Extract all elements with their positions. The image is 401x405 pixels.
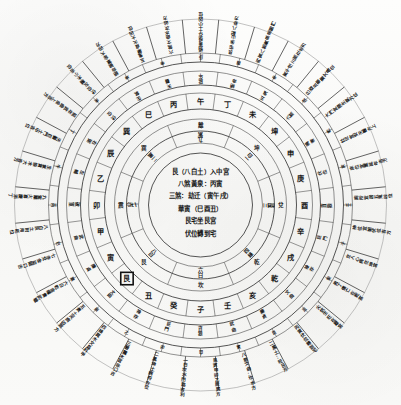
trigram-cell-巽: 巽 bbox=[141, 144, 147, 152]
mountain-cell-甲: 甲 bbox=[97, 227, 104, 236]
aux-cell-14: 五鬼 bbox=[259, 89, 269, 101]
radial-glyph: 曲 bbox=[72, 235, 80, 242]
radial-annotation-6: 七赤兌金盜賊口舌 bbox=[17, 253, 58, 271]
aux-divider-22 bbox=[149, 81, 154, 94]
degree-tick-45 bbox=[142, 65, 145, 73]
mountain-cell-辰: 辰 bbox=[107, 149, 115, 158]
mountain-divider-19 bbox=[97, 162, 112, 168]
aux-divider-14 bbox=[119, 300, 128, 311]
rim-cell-7: 午 bbox=[54, 164, 62, 171]
radial-glyph: 門 bbox=[164, 325, 171, 333]
radial-annotation-5: 六白乾金權貴武職 bbox=[31, 279, 69, 304]
trigram-cell-乾: 乾 bbox=[254, 258, 260, 266]
mountain-divider-1 bbox=[237, 102, 243, 117]
outer-spoke-8 bbox=[352, 220, 386, 223]
radial-annotation-13: 絕命破軍金大凶方 bbox=[94, 41, 121, 78]
aux-cell-9: 伏位 bbox=[105, 110, 117, 122]
aux-cell-17: 伏位 bbox=[316, 168, 329, 176]
rim-cell-14: 辛 bbox=[270, 73, 278, 82]
mountain-cell-子: 子 bbox=[197, 305, 204, 314]
radial-annotation-24: 廁所宜居五鬼凶位 bbox=[353, 193, 394, 200]
trigram-divider-0 bbox=[224, 126, 233, 148]
aux-cell-18: 貪狼 bbox=[320, 203, 332, 209]
mountain-divider-17 bbox=[89, 218, 105, 220]
degree-tick-31 bbox=[80, 292, 87, 297]
degree-tick-13 bbox=[342, 224, 351, 225]
aux-cell-21: 文曲 bbox=[284, 288, 296, 300]
trigram-cell-離: 離 bbox=[198, 121, 204, 129]
trigram-cell-艮: 艮 bbox=[141, 258, 147, 266]
radial-glyph: 位 bbox=[144, 384, 151, 392]
radial-glyph: 位 bbox=[8, 229, 16, 235]
radial-annotation-8: 九紫離火喜慶添丁 bbox=[7, 193, 49, 200]
mountain-divider-3 bbox=[277, 137, 290, 147]
mountain-divider-18 bbox=[89, 190, 105, 192]
outer-spoke-31 bbox=[182, 20, 185, 54]
aux-divider-5 bbox=[319, 188, 333, 190]
ring-circle-0 bbox=[149, 153, 253, 257]
degree-tick-1 bbox=[219, 54, 220, 63]
trigram-cell-兌: 兌 bbox=[278, 201, 284, 209]
rim-cell-10: 坤 bbox=[123, 73, 130, 81]
radial-annotation-31: 八煞文曲：坎水方 bbox=[240, 352, 257, 392]
mountain-divider-11 bbox=[213, 300, 215, 316]
trigram-divider-4 bbox=[168, 262, 177, 284]
aux-cell-7: 左輔 bbox=[72, 168, 86, 176]
outer-spoke-6 bbox=[346, 151, 379, 161]
radial-annotation-30: 二黑土：旺艮方 bbox=[269, 340, 290, 374]
outer-spoke-30 bbox=[147, 27, 157, 60]
degree-tick-23 bbox=[219, 347, 220, 356]
mountain-cell-卯: 卯 bbox=[93, 201, 100, 210]
mountain-cell-未: 未 bbox=[248, 110, 257, 119]
radial-glyph: 紫 bbox=[197, 131, 203, 139]
radial-annotation-20: 巳酉丑華蓋文昌位 bbox=[304, 63, 336, 96]
aux-cell-5: 武曲 bbox=[72, 234, 85, 242]
radial-annotation-7: 八白艮土財帛旺位 bbox=[8, 223, 49, 235]
flying-star-cell-二黑: 二黑 bbox=[145, 151, 158, 163]
radial-annotation-25: 神位宜朝伏位吉方 bbox=[351, 224, 393, 235]
degree-tick-11 bbox=[342, 185, 351, 186]
ring-circle-7 bbox=[67, 71, 335, 339]
radial-glyph: 位 bbox=[198, 11, 203, 18]
aux-cell-13: 絕命 bbox=[229, 77, 238, 90]
radial-annotation-15: 六煞文曲水次凶方 bbox=[161, 14, 174, 55]
mountain-cell-巳: 巳 bbox=[145, 110, 152, 119]
mountain-divider-7 bbox=[289, 242, 304, 248]
rim-cell-18: 壬 bbox=[345, 202, 352, 207]
degree-tick-15 bbox=[333, 260, 341, 263]
radial-glyph: 方 bbox=[161, 14, 167, 22]
mountain-cell-丁: 丁 bbox=[224, 100, 231, 109]
aux-cell-15: 六煞 bbox=[284, 110, 296, 122]
mountain-cell-壬: 壬 bbox=[224, 301, 231, 310]
radial-annotation-12: 伏位左輔木小吉位 bbox=[65, 63, 97, 96]
radial-annotation-11: 延年武曲金上吉方 bbox=[41, 91, 78, 119]
aux-divider-21 bbox=[119, 99, 128, 110]
radial-glyph: 方 bbox=[381, 157, 389, 164]
trigram-cell-坤: 坤 bbox=[254, 144, 260, 152]
luopan-figure: 離坤兌乾坎艮震巽九紫一白三碧四綠六白八白七赤二黑子癸丑艮寅甲卯乙辰巽巳丙午丁未坤… bbox=[0, 0, 401, 405]
radial-glyph: 曲 bbox=[231, 325, 238, 333]
trigram-cell-震: 震 bbox=[117, 201, 124, 209]
aux-cell-11: 天醫 bbox=[164, 77, 172, 90]
degree-tick-47 bbox=[181, 54, 182, 63]
outer-spoke-24 bbox=[15, 187, 49, 190]
radial-annotation-29: 丙寅伏位轉到宅 bbox=[293, 323, 319, 355]
rim-cell-16: 乾 bbox=[324, 127, 333, 135]
aux-divider-2 bbox=[274, 99, 283, 110]
trigram-divider-3 bbox=[224, 262, 233, 284]
mountain-divider-6 bbox=[296, 218, 312, 220]
mountain-cell-申: 申 bbox=[287, 149, 294, 158]
degree-tick-17 bbox=[314, 292, 321, 297]
outer-spoke-1 bbox=[245, 27, 255, 60]
luopan-wheel: 離坤兌乾坎艮震巽九紫一白三碧四綠六白八白七赤二黑子癸丑艮寅甲卯乙辰巽巳丙午丁未坤… bbox=[0, 0, 401, 405]
radial-annotation-17: 艮宅坐山配八卦方 bbox=[227, 14, 240, 55]
degree-tick-39 bbox=[60, 147, 68, 150]
radial-glyph: 碧 bbox=[267, 202, 275, 209]
mountain-cell-丑: 丑 bbox=[145, 291, 153, 300]
rim-cell-11: 申 bbox=[159, 59, 165, 67]
mountain-cell-辛: 辛 bbox=[297, 227, 304, 236]
radial-glyph: 軍 bbox=[68, 203, 75, 208]
radial-annotation-16: 禍害祿存土小凶位 bbox=[198, 11, 204, 52]
mountain-divider-0 bbox=[213, 94, 215, 110]
aux-divider-6 bbox=[319, 221, 333, 223]
